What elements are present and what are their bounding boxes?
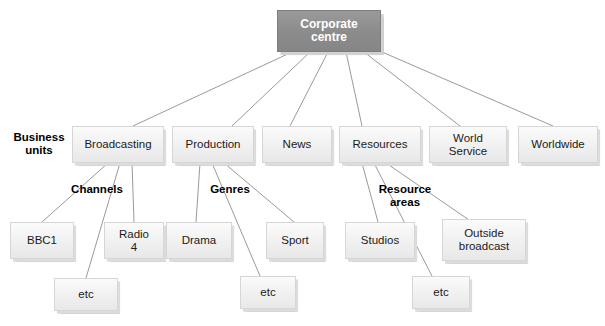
edge-root-news [290,52,328,126]
node-bbc1[interactable]: BBC1 [10,222,74,259]
node-resource-areas-etc[interactable]: etc [412,276,470,309]
node-outside-broadcast-label: Outside broadcast [459,227,510,253]
edge-root-resources [346,52,362,126]
node-channels-etc[interactable]: etc [54,278,118,311]
node-sport[interactable]: Sport [266,222,324,259]
node-broadcasting[interactable]: Broadcasting [72,126,164,163]
node-corporate-centre-label: Corporate centre [300,18,357,45]
node-sport-label: Sport [281,234,309,247]
node-channels-etc-label: etc [78,288,93,301]
node-radio-4-label: Radio 4 [119,228,149,254]
node-genres-etc[interactable]: etc [240,276,296,309]
node-drama[interactable]: Drama [166,222,232,259]
row-label-genres: Genres [200,183,260,196]
node-radio-4[interactable]: Radio 4 [104,222,164,259]
node-corporate-centre[interactable]: Corporate centre [277,10,381,52]
node-drama-label: Drama [182,234,217,247]
node-studios[interactable]: Studios [345,222,415,259]
row-label-business-units: Business units [8,131,70,157]
node-resource-areas-etc-label: etc [433,286,448,299]
node-resources-label: Resources [353,138,408,151]
edge-resources-etc [374,163,432,276]
node-news-label: News [283,138,312,151]
node-production-label: Production [186,138,241,151]
node-world-service[interactable]: World Service [429,126,507,163]
node-resources[interactable]: Resources [339,126,421,163]
row-label-channels: Channels [62,183,132,196]
edge-root-broadcasting [133,52,292,126]
row-label-resource-areas: Resource areas [368,183,442,209]
node-broadcasting-label: Broadcasting [84,138,151,151]
node-production[interactable]: Production [172,126,254,163]
node-genres-etc-label: etc [260,286,275,299]
edge-production-etc [212,163,260,276]
edge-root-production [232,52,310,126]
node-studios-label: Studios [361,234,399,247]
node-news[interactable]: News [262,126,332,163]
edge-broadcasting-etc [86,163,120,278]
edge-root-worldwide [382,52,553,126]
node-world-service-label: World Service [449,132,487,158]
node-worldwide[interactable]: Worldwide [518,126,598,163]
edge-root-worldservice [364,52,460,126]
edge-broadcasting-radio4 [132,163,134,222]
node-worldwide-label: Worldwide [531,138,584,151]
node-bbc1-label: BBC1 [27,234,57,247]
node-outside-broadcast[interactable]: Outside broadcast [442,219,526,261]
org-chart-diagram: Corporate centre Business units Channels… [0,0,605,326]
